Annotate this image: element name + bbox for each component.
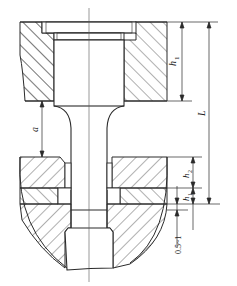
label-a: a — [29, 127, 40, 132]
svg-text:h: h — [167, 61, 178, 66]
label-h2: h 2 — [181, 170, 193, 178]
lower-assembly — [20, 157, 168, 270]
cross-section-diagram: h 1 L a h 2 h 1 0.5~1 — [0, 0, 237, 286]
svg-text:2: 2 — [187, 170, 193, 173]
svg-text:a: a — [29, 127, 40, 132]
label-h1-bottom: h 1 — [181, 193, 193, 201]
svg-text:L: L — [196, 110, 207, 117]
label-L: L — [196, 110, 207, 117]
label-gap: 0.5~1 — [174, 236, 183, 254]
svg-text:1: 1 — [187, 193, 193, 196]
svg-text:1: 1 — [173, 56, 181, 60]
svg-text:0.5~1: 0.5~1 — [174, 236, 183, 254]
label-h1-top: h 1 — [167, 56, 181, 66]
